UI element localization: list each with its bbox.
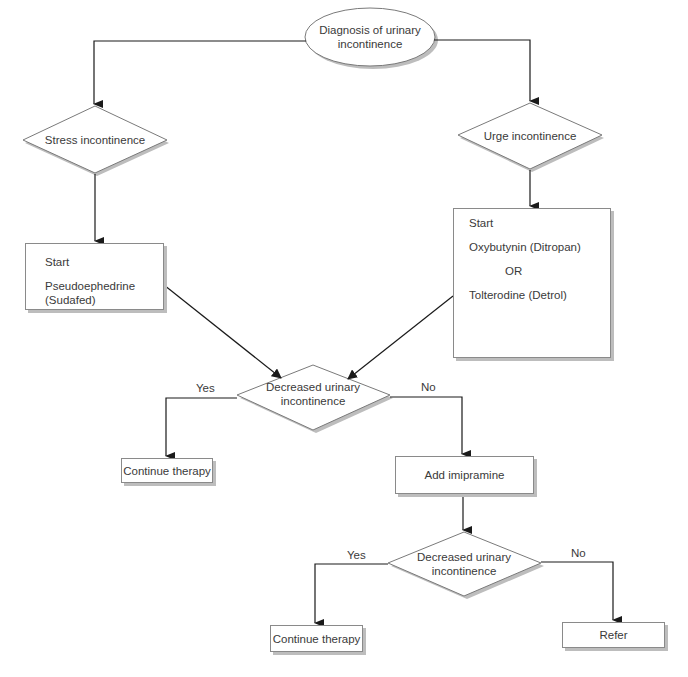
continue-therapy-label-1: Continue therapy <box>123 465 211 477</box>
decision2-line-2: incontinence <box>432 564 497 578</box>
decision1-no-label: No <box>421 381 436 393</box>
decision1-line-2: incontinence <box>281 394 346 408</box>
continue-therapy-label-2: Continue therapy <box>273 633 361 645</box>
decision1-node: Decreased urinary incontinence <box>255 379 371 409</box>
urge-start-or: OR <box>469 264 610 278</box>
diagnosis-node: Diagnosis of urinary incontinence <box>310 18 430 56</box>
continue-therapy-box-1: Continue therapy <box>121 458 213 483</box>
urge-start-title: Start <box>469 216 610 230</box>
decision2-node: Decreased urinary incontinence <box>406 549 522 579</box>
stress-start-brand: (Sudafed) <box>45 293 163 307</box>
diagnosis-line-2: incontinence <box>338 37 403 51</box>
stress-start-box: Start Pseudoephedrine (Sudafed) <box>25 243 164 310</box>
refer-label: Refer <box>599 629 627 641</box>
add-imipramine-label: Add imipramine <box>425 469 505 481</box>
urge-label: Urge incontinence <box>484 129 577 143</box>
diagnosis-line-1: Diagnosis of urinary <box>319 23 421 37</box>
urge-start-option1: Oxybutynin (Ditropan) <box>469 240 610 254</box>
urge-incontinence-node: Urge incontinence <box>463 128 597 144</box>
decision1-yes-label: Yes <box>196 382 215 394</box>
stress-incontinence-node: Stress incontinence <box>28 132 162 148</box>
urge-start-option2: Tolterodine (Detrol) <box>469 288 610 302</box>
continue-therapy-box-2: Continue therapy <box>270 625 363 652</box>
urge-start-box: Start Oxybutynin (Ditropan) OR Tolterodi… <box>453 208 611 358</box>
refer-box: Refer <box>562 622 665 648</box>
decision2-no-label: No <box>571 547 586 559</box>
stress-start-title: Start <box>45 255 163 269</box>
add-imipramine-box: Add imipramine <box>395 456 534 494</box>
decision1-line-1: Decreased urinary <box>266 380 360 394</box>
stress-label: Stress incontinence <box>45 133 145 147</box>
decision2-yes-label: Yes <box>347 549 366 561</box>
stress-start-drug: Pseudoephedrine <box>45 279 163 293</box>
decision2-line-1: Decreased urinary <box>417 550 511 564</box>
